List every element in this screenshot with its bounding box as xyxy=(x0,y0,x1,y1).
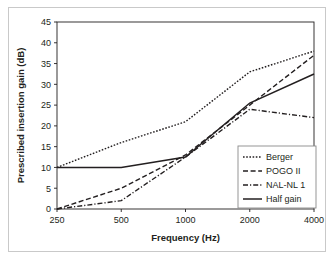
y-tick-label: 30 xyxy=(41,80,51,90)
x-tick-label: 250 xyxy=(49,215,64,225)
legend-label-nal-nl-1: NAL-NL 1 xyxy=(266,180,305,190)
y-tick-label: 40 xyxy=(41,38,51,48)
y-tick-label: 45 xyxy=(41,17,51,27)
chart-figure: 051015202530354045250500100020004000Freq… xyxy=(0,0,334,260)
y-tick-label: 10 xyxy=(41,163,51,173)
legend-label-berger: Berger xyxy=(266,152,293,162)
y-tick-label: 15 xyxy=(41,142,51,152)
legend-label-pogo-ii: POGO II xyxy=(266,166,301,176)
x-axis-label: Frequency (Hz) xyxy=(151,232,220,243)
y-axis-label: Prescribed insertion gain (dB) xyxy=(15,48,26,184)
x-tick-label: 4000 xyxy=(304,215,324,225)
y-tick-label: 20 xyxy=(41,121,51,131)
y-tick-label: 35 xyxy=(41,59,51,69)
legend-label-half-gain: Half gain xyxy=(266,194,302,204)
y-tick-label: 0 xyxy=(46,204,51,214)
x-tick-label: 2000 xyxy=(240,215,260,225)
y-tick-label: 25 xyxy=(41,100,51,110)
line-chart: 051015202530354045250500100020004000Freq… xyxy=(0,0,334,260)
y-tick-label: 5 xyxy=(46,184,51,194)
x-tick-label: 500 xyxy=(114,215,129,225)
x-tick-label: 1000 xyxy=(175,215,195,225)
